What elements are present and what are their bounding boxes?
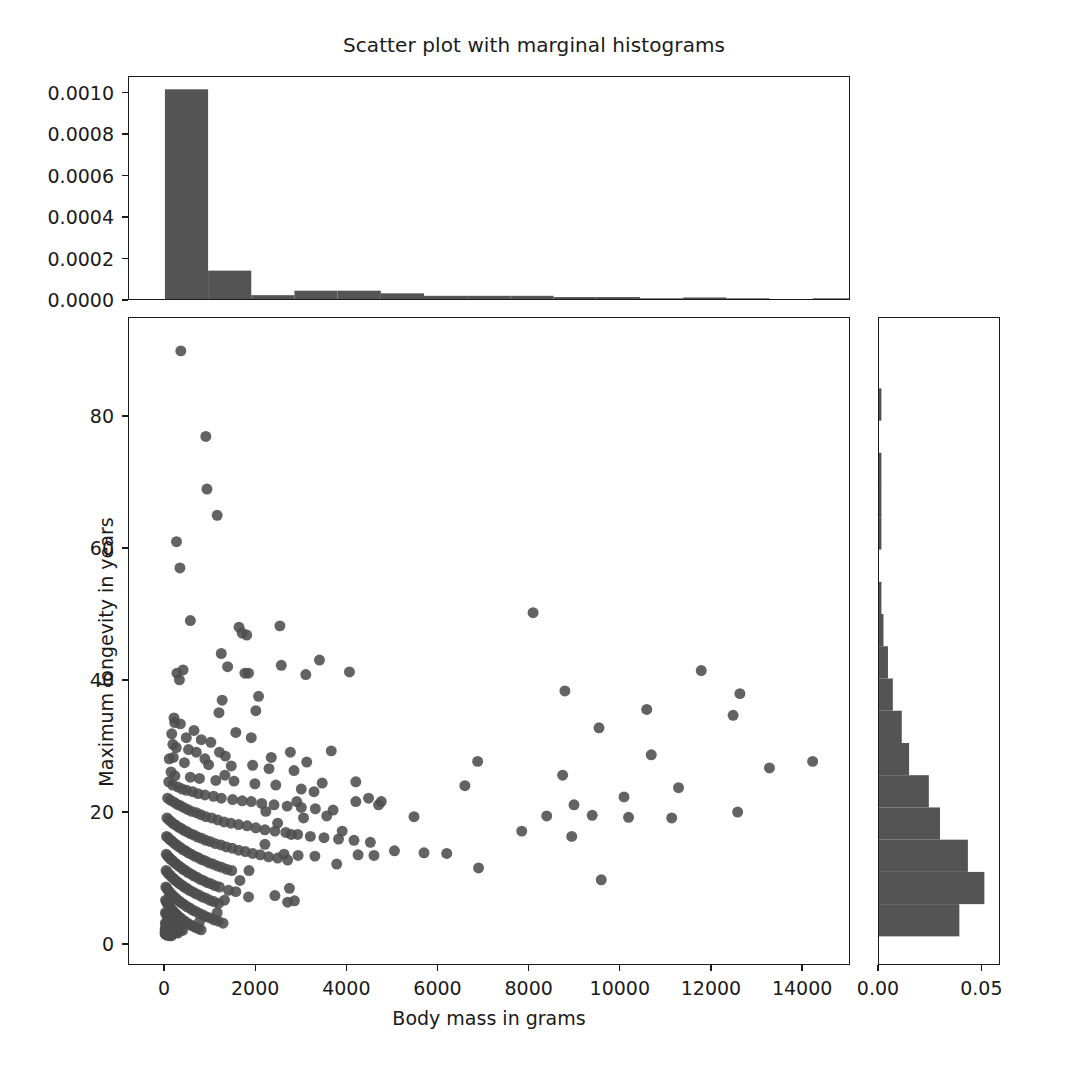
x-tick-4000: 4000 [322,977,370,999]
x-tick-8000: 8000 [504,977,552,999]
y-tick-0: 0 [18,933,114,955]
scatter-points [129,318,849,964]
x-tick-12000: 12000 [681,977,741,999]
top-hist-y-tick-0_0010-mark [122,92,128,93]
top-hist-y-tick-0_0010: 0.0010 [18,82,114,104]
x-tick-10000: 10000 [590,977,650,999]
x-tick-6000-mark [437,965,438,971]
x-tick-0: 0 [158,977,170,999]
top-hist-y-tick-0_0006: 0.0006 [18,165,114,187]
top-histogram-bars [129,77,849,299]
top-hist-y-tick-0_0000-mark [122,299,128,300]
top-hist-y-tick-0_0004-mark [122,216,128,217]
top-hist-y-tick-0_0008-mark [122,133,128,134]
x-tick-2000: 2000 [231,977,279,999]
x-tick-4000-mark [346,965,347,971]
scatter-plot-panel [128,317,850,965]
right-hist-x-tick-0_00: 0.00 [857,977,899,999]
figure-canvas: Scatter plot with marginal histograms 0.… [0,0,1068,1069]
y-tick-0-mark [122,943,128,944]
top-hist-y-tick-0_0000: 0.0000 [18,289,114,311]
y-axis-label: Maximum longevity in years [95,442,117,862]
x-tick-2000-mark [255,965,256,971]
x-tick-10000-mark [619,965,620,971]
x-tick-6000: 6000 [413,977,461,999]
y-tick-40-mark [122,679,128,680]
x-tick-14000-mark [801,965,802,971]
x-axis-label: Body mass in grams [128,1007,850,1029]
right-marginal-histogram-panel [878,317,1000,965]
y-tick-80-mark [122,415,128,416]
x-tick-8000-mark [528,965,529,971]
right-hist-x-tick-0_05-mark [981,965,982,971]
y-tick-60-mark [122,547,128,548]
top-hist-y-tick-0_0002-mark [122,258,128,259]
y-tick-20-mark [122,811,128,812]
top-marginal-histogram-panel [128,76,850,300]
top-hist-y-tick-0_0006-mark [122,175,128,176]
figure-title: Scatter plot with marginal histograms [0,33,1068,57]
top-hist-y-tick-0_0008: 0.0008 [18,123,114,145]
top-hist-y-tick-0_0002: 0.0002 [18,248,114,270]
top-hist-y-tick-0_0004: 0.0004 [18,206,114,228]
y-tick-80: 80 [18,405,114,427]
right-hist-x-tick-0_00-mark [877,965,878,971]
right-histogram-bars [879,318,999,964]
x-tick-14000: 14000 [772,977,832,999]
x-tick-12000-mark [710,965,711,971]
right-hist-x-tick-0_05: 0.05 [960,977,1002,999]
x-tick-0-mark [163,965,164,971]
